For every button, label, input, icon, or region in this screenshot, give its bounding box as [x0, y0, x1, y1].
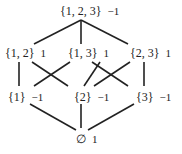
node-n0: ∅1 — [76, 132, 98, 146]
hasse-edges — [0, 0, 182, 154]
node-n12: {1, 2}1 — [5, 46, 46, 60]
edge — [94, 62, 130, 86]
node-set-label: ∅ — [76, 132, 86, 146]
edge — [88, 104, 134, 130]
edge — [84, 62, 100, 86]
node-set-label: {1, 3} — [68, 46, 98, 60]
node-set-label: {1} — [8, 90, 26, 104]
node-n3: {3}−1 — [136, 90, 171, 104]
node-value: −1 — [32, 91, 44, 103]
edge — [34, 20, 81, 44]
node-set-label: {2} — [74, 90, 92, 104]
edge — [34, 62, 70, 86]
node-set-label: {1, 2, 3} — [60, 4, 102, 18]
node-set-label: {3} — [136, 90, 154, 104]
edge — [81, 20, 128, 44]
node-n23: {2, 3}1 — [130, 46, 171, 60]
edge — [32, 62, 68, 86]
node-set-label: {1, 2} — [5, 46, 35, 60]
edge — [30, 104, 76, 130]
node-value: −1 — [98, 91, 110, 103]
node-n123: {1, 2, 3}−1 — [60, 4, 119, 18]
node-value: 1 — [166, 47, 172, 59]
node-value: 1 — [41, 47, 47, 59]
node-n13: {1, 3}1 — [68, 46, 109, 60]
node-n1: {1}−1 — [8, 90, 43, 104]
node-value: 1 — [104, 47, 110, 59]
node-value: −1 — [160, 91, 172, 103]
node-value: −1 — [108, 5, 120, 17]
node-value: 1 — [92, 133, 98, 145]
node-n2: {2}−1 — [74, 90, 109, 104]
node-set-label: {2, 3} — [130, 46, 160, 60]
